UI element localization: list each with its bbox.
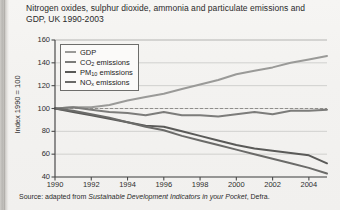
x-tick-label-1998: 1998 xyxy=(185,180,215,189)
x-tick-label-2004: 2004 xyxy=(294,180,324,189)
figure-page: Nitrogen oxides, sulphur dioxide, ammoni… xyxy=(0,0,340,210)
legend-item-gdp: GDP xyxy=(65,47,133,57)
y-tick-label-120: 120 xyxy=(26,81,50,90)
legend-item-nox-emissions: NOx emissions xyxy=(65,77,133,87)
source-publication-title: Sustainable Development Indicators in yo… xyxy=(88,193,246,200)
legend-swatch-icon xyxy=(65,71,76,74)
source-prefix: Source: adapted from xyxy=(19,193,88,200)
line-chart: 406080100120140160 199019921994199619982… xyxy=(0,0,340,210)
y-axis-title: Index 1990 = 100 xyxy=(13,45,22,165)
y-tick-label-100: 100 xyxy=(26,104,50,113)
x-tick-label-1994: 1994 xyxy=(113,180,143,189)
legend-item-label: NOx emissions xyxy=(80,78,129,87)
y-tick-label-140: 140 xyxy=(26,58,50,67)
source-suffix: , Defra. xyxy=(247,193,270,200)
legend-swatch-icon xyxy=(65,51,76,54)
legend-item-label: PM10 emissions xyxy=(80,68,133,77)
x-tick-label-2000: 2000 xyxy=(221,180,251,189)
x-tick-label-1996: 1996 xyxy=(149,180,179,189)
legend-swatch-icon xyxy=(65,61,76,64)
legend-item-pm10-emissions: PM10 emissions xyxy=(65,67,133,77)
x-tick-label-2002: 2002 xyxy=(258,180,288,189)
figure-source-note: Source: adapted from Sustainable Develop… xyxy=(19,193,270,200)
y-tick-label-160: 160 xyxy=(26,35,50,44)
x-tick-label-1992: 1992 xyxy=(76,180,106,189)
chart-legend: GDPCO2 emissionsPM10 emissionsNOx emissi… xyxy=(60,44,139,91)
legend-item-co2-emissions: CO2 emissions xyxy=(65,57,133,67)
y-tick-label-80: 80 xyxy=(26,126,50,135)
legend-item-label: CO2 emissions xyxy=(80,58,130,67)
y-tick-label-60: 60 xyxy=(26,149,50,158)
x-tick-label-1990: 1990 xyxy=(40,180,70,189)
series-line-pm10-emissions xyxy=(55,109,327,164)
legend-swatch-icon xyxy=(65,81,76,84)
chart-canvas xyxy=(0,0,340,210)
legend-item-label: GDP xyxy=(80,48,96,57)
series-line-nox-emissions xyxy=(55,109,327,174)
